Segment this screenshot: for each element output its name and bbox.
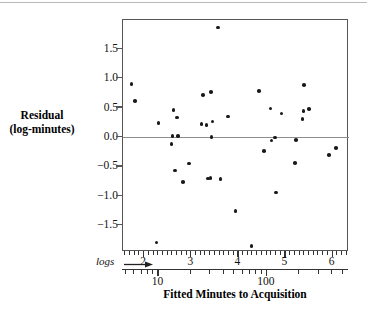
minutes-axis-minor-tick (249, 270, 250, 274)
data-point (209, 176, 213, 180)
minutes-axis-minor-tick (190, 270, 191, 274)
log-axis-minor-tick (228, 251, 229, 255)
y-axis-title-line1: Residual (2, 108, 82, 122)
data-point (234, 209, 238, 213)
y-axis-tick-mark (116, 77, 122, 78)
log-axis-minor-tick (214, 251, 215, 255)
minutes-axis-minor-tick (261, 270, 262, 274)
y-axis-tick-mark (116, 106, 122, 107)
log-axis-minor-tick (247, 251, 248, 255)
data-point (181, 180, 185, 184)
y-axis-tick-mark (116, 195, 122, 196)
zero-reference-line (123, 137, 349, 139)
minutes-axis-minor-tick (223, 270, 224, 274)
log-axis-minor-tick (176, 251, 177, 255)
data-point (302, 109, 306, 113)
log-axis-tick-labels: 23456 (122, 256, 348, 270)
data-point (209, 90, 213, 94)
data-point (201, 93, 205, 97)
log-axis-minor-tick (341, 251, 342, 255)
data-point (226, 115, 230, 119)
log-axis-minor-tick (313, 251, 314, 255)
figure-residual-plot: Residual (log-minutes) 1.51.00.50.0−0.5−… (0, 0, 367, 310)
log-axis-minor-tick (261, 251, 262, 255)
log-axis-minor-tick (308, 251, 309, 255)
data-point (173, 169, 177, 173)
data-point (205, 123, 209, 127)
log-axis-minor-tick (280, 251, 281, 255)
logs-axis-label: logs (96, 256, 114, 267)
minutes-axis-minor-tick (331, 270, 332, 274)
log-axis-minor-tick (171, 251, 172, 255)
log-axis-minor-tick (266, 251, 267, 255)
log-axis-minor-tick (167, 251, 168, 255)
log-axis-minor-tick (181, 251, 182, 255)
data-point (157, 121, 161, 125)
minutes-axis-minor-tick (152, 270, 153, 274)
data-point (257, 89, 261, 93)
data-point (294, 138, 298, 142)
data-point (262, 149, 266, 153)
data-point (130, 82, 134, 86)
y-axis-tick-mark (116, 48, 122, 49)
y-axis-tick-mark (116, 136, 122, 137)
data-point (200, 122, 204, 126)
minutes-axis-minor-tick (255, 270, 256, 274)
data-point (273, 136, 277, 140)
minutes-axis-minor-tick (318, 270, 319, 274)
data-point (334, 146, 338, 150)
data-point (301, 117, 305, 121)
data-point (250, 244, 254, 248)
log-axis-minor-tick (219, 251, 220, 255)
log-axis-minor-tick (195, 251, 196, 255)
log-axis-tick-label: 4 (234, 256, 240, 268)
data-point (269, 107, 273, 111)
data-point (274, 191, 278, 195)
log-axis-minor-tick (157, 251, 158, 255)
y-axis-tick-mark (116, 165, 122, 166)
log-axis-minor-tick (256, 251, 257, 255)
minutes-axis-minor-tick (298, 270, 299, 274)
log-axis-minor-tick (303, 251, 304, 255)
minutes-axis-tick-label: 100 (257, 276, 274, 288)
plot-area (122, 19, 348, 251)
minutes-axis-minor-tick (133, 270, 134, 274)
data-point (155, 241, 159, 245)
log-axis-minor-tick (251, 251, 252, 255)
log-axis-minor-tick (294, 251, 295, 255)
data-point (210, 135, 214, 139)
minutes-axis-minor-tick (209, 270, 210, 274)
data-point (302, 83, 306, 87)
y-axis-tick-label: −1.5 (97, 219, 118, 231)
data-point (187, 162, 191, 166)
data-point (270, 139, 274, 143)
log-axis-minor-tick (124, 251, 125, 255)
y-axis-tick-label: −1.0 (97, 190, 118, 202)
log-axis-minor-tick (200, 251, 201, 255)
data-point (211, 120, 215, 124)
log-axis-minor-tick (129, 251, 130, 255)
minutes-axis-minor-tick (342, 270, 343, 274)
y-axis-title: Residual (log-minutes) (2, 108, 82, 137)
y-axis-tick-labels: 1.51.00.50.0−0.5−1.0−1.5 (78, 19, 118, 251)
data-point (133, 99, 137, 103)
log-axis-minor-tick (153, 251, 154, 255)
data-point (172, 108, 176, 112)
data-point (327, 153, 331, 157)
log-axis-minor-tick (134, 251, 135, 255)
data-point (219, 177, 223, 181)
log-axis-minor-tick (242, 251, 243, 255)
y-axis-title-line2: (log-minutes) (2, 122, 82, 136)
data-point (175, 116, 179, 120)
log-axis-minor-tick (299, 251, 300, 255)
data-point (307, 107, 311, 111)
minutes-axis-minor-tick (147, 270, 148, 274)
minutes-axis-minor-tick (141, 270, 142, 274)
data-point (170, 142, 174, 146)
y-axis-tick-label: −0.5 (97, 160, 118, 172)
x-axis-title: Fitted Minutes to Acquisition (122, 289, 348, 301)
log-axis-minor-tick (346, 251, 347, 255)
log-axis-minor-tick (148, 251, 149, 255)
log-axis-minor-tick (275, 251, 276, 255)
minutes-axis-minor-tick (242, 270, 243, 274)
